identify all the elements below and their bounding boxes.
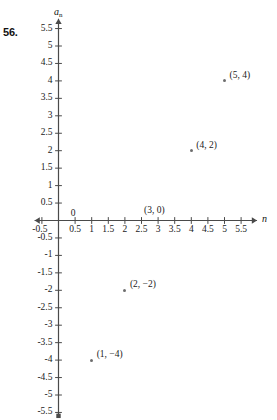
y-tick-label: -5 xyxy=(12,389,53,399)
y-tick-label: -1.5 xyxy=(12,267,53,277)
y-tick-label: -3 xyxy=(12,319,53,329)
y-tick-label: 5.5 xyxy=(12,23,53,33)
y-tick-label: -2 xyxy=(12,284,53,294)
data-point-marker xyxy=(90,359,93,362)
y-tick-label: 1.5 xyxy=(12,162,53,172)
x-axis-label: n xyxy=(262,213,267,224)
y-tick-label: 5 xyxy=(12,40,53,50)
y-tick-label: 3 xyxy=(12,110,53,120)
data-point-label: (3, 0) xyxy=(144,205,165,215)
y-tick-label: -5.5 xyxy=(12,406,53,416)
data-point-label: (4, 2) xyxy=(196,140,217,150)
y-tick-label: 4 xyxy=(12,75,53,85)
data-point-label: (5, 4) xyxy=(230,70,251,80)
y-tick-label: -1 xyxy=(12,249,53,259)
sequence-scatter-figure: 56. an n -0.500.511.522.533.544.555.55.5… xyxy=(0,0,277,420)
y-tick-label: 1 xyxy=(12,180,53,190)
y-tick-label: -4 xyxy=(12,354,53,364)
y-tick-label: 0.5 xyxy=(12,197,53,207)
y-tick-label: 2 xyxy=(12,145,53,155)
y-axis-label-subscript: n xyxy=(59,11,63,19)
y-tick-label: -3.5 xyxy=(12,337,53,347)
data-point-label: (2, −2) xyxy=(130,279,156,289)
y-tick-label: -2.5 xyxy=(12,302,53,312)
y-tick-label: -0.5 xyxy=(12,232,53,242)
y-tick-label: -4.5 xyxy=(12,372,53,382)
y-tick-label: 2.5 xyxy=(12,127,53,137)
y-axis-label: an xyxy=(54,6,63,17)
x-tick-label: 0 xyxy=(36,208,76,218)
x-tick-label: 5.5 xyxy=(221,224,261,234)
y-tick-label: 4.5 xyxy=(12,57,53,67)
data-point-marker xyxy=(190,149,193,152)
data-point-label: (1, −4) xyxy=(97,349,123,359)
y-tick-label: 3.5 xyxy=(12,92,53,102)
